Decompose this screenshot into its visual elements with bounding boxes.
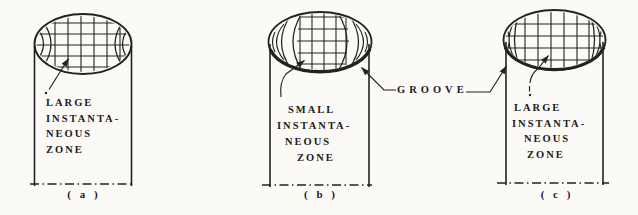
grid-c-verticals <box>525 10 589 70</box>
zone-leader-a <box>45 59 69 95</box>
groove-leader-left-arrow <box>362 68 397 91</box>
zone-label-a: LARGE INSTANTA- NEOUS ZONE <box>46 95 120 157</box>
zone-label-b-line2: INSTANTA- <box>277 118 351 134</box>
grid-a-horizontals <box>35 23 131 67</box>
caption-a: ( a ) <box>60 188 108 200</box>
zone-label-a-line4: ZONE <box>46 142 120 158</box>
figure-diagram: LARGE INSTANTA- NEOUS ZONE SMALL INSTANT… <box>0 0 638 215</box>
leader-a-arrow <box>49 59 69 90</box>
zone-label-a-line2: INSTANTA- <box>46 111 120 127</box>
zone-leader-c <box>529 56 549 97</box>
zone-label-b-line1: SMALL <box>288 102 351 118</box>
leader-c-dot <box>529 94 531 96</box>
meridian-curves-b <box>282 13 359 71</box>
zone-label-c: LARGE INSTANTA- NEOUS ZONE <box>512 100 586 162</box>
zone-label-c-line4: ZONE <box>527 147 586 163</box>
zone-label-c-line1: LARGE <box>514 100 586 116</box>
zone-label-b-line4: ZONE <box>297 150 351 166</box>
end-face-b-pattern <box>273 13 368 71</box>
edge-lens-curves-c <box>507 20 602 59</box>
zone-label-c-line2: INSTANTA- <box>512 116 586 132</box>
groove-label: GROOVE <box>397 84 468 95</box>
grid-a-edge-curves <box>35 20 131 68</box>
zone-label-a-line3: NEOUS <box>46 126 120 142</box>
curved-boundary-c <box>515 16 595 63</box>
zone-label-c-line3: NEOUS <box>524 131 586 147</box>
groove-leader-right-arrow <box>466 66 507 92</box>
leader-a-dot <box>45 92 47 94</box>
zone-label-b-line3: NEOUS <box>285 134 351 150</box>
caption-b: ( b ) <box>297 188 345 200</box>
caption-c: ( c ) <box>533 188 581 200</box>
small-zone-grid-b <box>297 13 349 70</box>
zone-label-a-line1: LARGE <box>46 95 120 111</box>
grid-b-horizontals <box>297 17 349 64</box>
zone-label-b: SMALL INSTANTA- NEOUS ZONE <box>277 102 351 166</box>
